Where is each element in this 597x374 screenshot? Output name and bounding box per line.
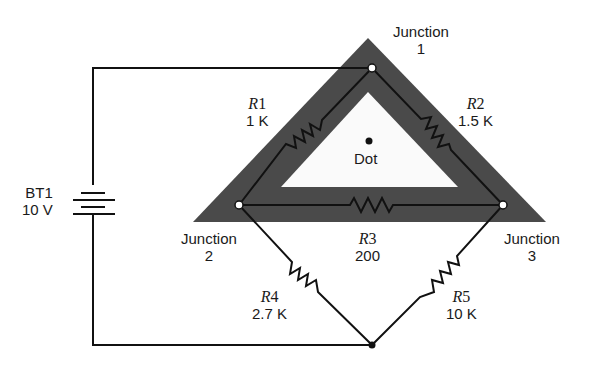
dot-marker bbox=[366, 138, 373, 145]
junction-2-label: Junction 2 bbox=[181, 230, 237, 264]
r5-label: R5 10 K bbox=[446, 288, 477, 322]
resistor-r5 bbox=[372, 205, 503, 345]
r1-letter: R bbox=[248, 95, 258, 112]
r2-value: 1.5 K bbox=[458, 112, 493, 129]
junction-3-title: Junction bbox=[504, 230, 560, 247]
r1-number: 1 bbox=[258, 95, 266, 112]
r5-number: 5 bbox=[462, 288, 470, 305]
battery-label: BT1 10 V bbox=[22, 184, 53, 218]
battery-bt1 bbox=[73, 193, 115, 214]
junction-2-node[interactable] bbox=[235, 201, 243, 209]
r3-number: 3 bbox=[368, 230, 376, 247]
circuit-diagram bbox=[0, 0, 597, 374]
r4-letter: R bbox=[261, 288, 271, 305]
junction-3-number: 3 bbox=[504, 247, 560, 264]
r1-value: 1 K bbox=[246, 112, 269, 129]
r4-value: 2.7 K bbox=[252, 305, 287, 322]
junction-3-label: Junction 3 bbox=[504, 230, 560, 264]
r3-label: R3 200 bbox=[355, 230, 380, 264]
r4-label: R4 2.7 K bbox=[252, 288, 287, 322]
resistor-r4 bbox=[239, 205, 372, 345]
junction-1-node[interactable] bbox=[368, 64, 376, 72]
junction-2-number: 2 bbox=[181, 247, 237, 264]
junction-1-number: 1 bbox=[393, 40, 449, 57]
bottom-node[interactable] bbox=[369, 342, 376, 349]
battery-name: BT1 bbox=[22, 184, 53, 201]
junction-1-label: Junction 1 bbox=[393, 23, 449, 57]
r2-letter: R bbox=[467, 95, 477, 112]
junction-2-title: Junction bbox=[181, 230, 237, 247]
r2-label: R2 1.5 K bbox=[458, 95, 493, 129]
r5-value: 10 K bbox=[446, 305, 477, 322]
r2-number: 2 bbox=[476, 95, 484, 112]
r3-letter: R bbox=[359, 230, 369, 247]
r5-letter: R bbox=[453, 288, 463, 305]
dot-label: Dot bbox=[354, 150, 377, 167]
r1-label: R1 1 K bbox=[246, 95, 269, 129]
junction-3-node[interactable] bbox=[499, 201, 507, 209]
r3-value: 200 bbox=[355, 247, 380, 264]
battery-value: 10 V bbox=[22, 201, 53, 218]
junction-1-title: Junction bbox=[393, 23, 449, 40]
r4-number: 4 bbox=[270, 288, 278, 305]
